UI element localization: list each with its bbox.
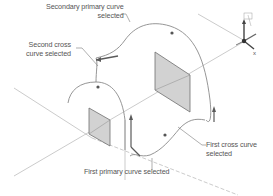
first-cross-curve: [130, 119, 205, 156]
axis-x-label: x: [253, 49, 256, 58]
label-line: curve selected: [26, 50, 71, 59]
label-line: selected: [46, 12, 124, 21]
axis-indicator-icon: [236, 13, 256, 49]
label-line: First primary curve selected: [84, 168, 169, 177]
label-first-cross-curve: First cross curve selected: [206, 141, 257, 158]
marker-first-cross: [163, 133, 166, 136]
label-secondary-primary-curve: Secondary primary curve selected: [46, 3, 124, 20]
secondary-primary-curve: [96, 24, 211, 122]
label-first-primary-curve: First primary curve selected: [84, 168, 169, 177]
leader-first-cross: [178, 127, 206, 145]
large-profile-plane: [155, 52, 190, 112]
axis-extension-line: [198, 14, 245, 41]
cross-axis-line-left: [14, 88, 92, 138]
marker-secondary-primary: [170, 31, 173, 34]
label-line: selected: [206, 150, 257, 159]
label-second-cross-curve: Second cross curve selected: [26, 41, 71, 58]
loft-diagram: Secondary primary curve selected Second …: [0, 0, 273, 196]
second-cross-curve-link: [96, 58, 97, 82]
small-profile-plane: [89, 108, 110, 146]
axis-origin: [242, 39, 246, 43]
leader-second-cross: [76, 48, 98, 66]
marker-second-cross: [96, 85, 99, 88]
